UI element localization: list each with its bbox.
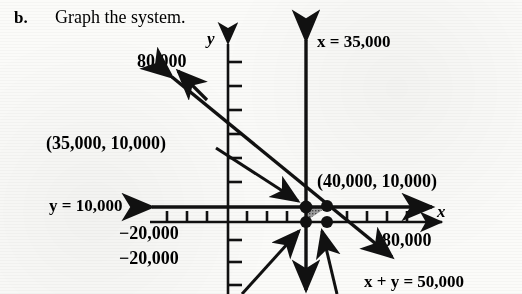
x-axis-ticks bbox=[167, 211, 407, 222]
leader-arrow-line-sum bbox=[322, 231, 337, 294]
point-dot-35000-10000 bbox=[300, 201, 313, 214]
line-x-plus-y-equals-50000 bbox=[172, 77, 392, 257]
leader-arrow-x-intercept bbox=[242, 231, 299, 294]
point-dot-x-intercept-50000 bbox=[321, 216, 333, 228]
y-axis-ticks bbox=[228, 62, 242, 285]
figure-canvas: b. Graph the system. y x 80,000 80,000 −… bbox=[0, 0, 522, 294]
point-dot-x-intercept-35000 bbox=[300, 216, 312, 228]
point-dot-40000-10000 bbox=[321, 200, 333, 212]
coordinate-plane bbox=[0, 0, 522, 294]
